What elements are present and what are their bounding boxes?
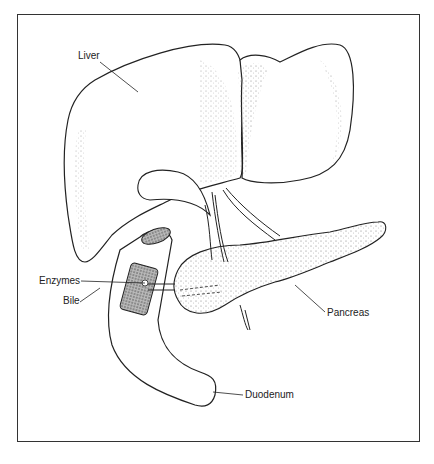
label-liver: Liver — [78, 51, 100, 61]
anatomy-illustration — [0, 0, 434, 464]
label-duodenum: Duodenum — [245, 390, 294, 400]
duodenum — [108, 224, 215, 406]
label-bile: Bile — [63, 296, 80, 306]
label-pancreas: Pancreas — [327, 308, 369, 318]
label-enzymes: Enzymes — [39, 276, 80, 286]
